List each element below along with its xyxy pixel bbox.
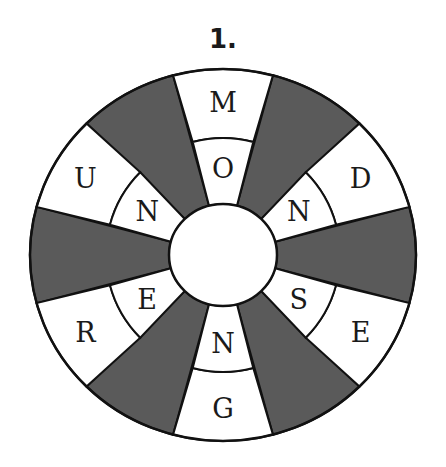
outer-letter: D (350, 163, 372, 194)
letter-wheel: MODNESGNREUN (0, 0, 446, 467)
outer-letter: E (351, 317, 371, 348)
inner-letter: E (137, 284, 157, 315)
outer-letter: R (75, 317, 96, 348)
center-circle (169, 204, 277, 306)
outer-letter: U (74, 163, 97, 194)
inner-letter: N (135, 196, 159, 227)
inner-letter: N (287, 196, 311, 227)
inner-letter: N (211, 328, 235, 359)
outer-letter: G (212, 393, 234, 424)
inner-letter: S (290, 284, 309, 315)
inner-letter: O (212, 153, 234, 184)
outer-letter: M (209, 87, 237, 118)
